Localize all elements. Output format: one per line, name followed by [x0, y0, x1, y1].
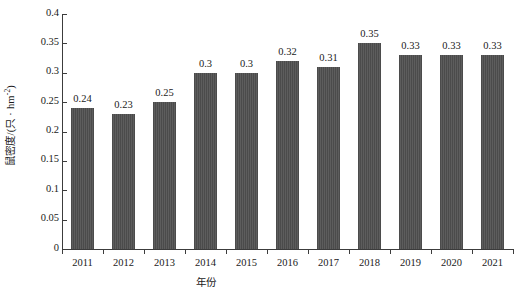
y-tick-label: 0.25	[41, 95, 59, 106]
x-tick-mark	[513, 250, 514, 254]
x-tick-label: 2013	[144, 257, 185, 268]
x-tick-mark	[390, 250, 391, 254]
x-tick-mark	[226, 250, 227, 254]
y-tick-label: 0.4	[46, 7, 59, 18]
chart-figure: 鼠密度/(只 · hm-2) 00.050.10.150.20.250.30.3…	[0, 0, 519, 295]
x-tick-mark	[62, 250, 63, 254]
y-tick-label: 0.3	[46, 65, 59, 76]
y-tick-label: 0.05	[41, 212, 59, 223]
bar	[358, 43, 381, 249]
x-tick-label: 2018	[349, 257, 390, 268]
y-tick-label: 0.1	[46, 183, 59, 194]
y-tick-mark	[63, 73, 67, 74]
bar-value-label: 0.31	[308, 52, 349, 63]
x-tick-label: 2012	[103, 257, 144, 268]
x-tick-mark	[267, 250, 268, 254]
bar-value-label: 0.33	[431, 40, 472, 51]
x-tick-mark	[349, 250, 350, 254]
y-tick-mark	[63, 14, 67, 15]
bar-value-label: 0.32	[267, 46, 308, 57]
y-tick-label: 0.15	[41, 153, 59, 164]
x-tick-mark	[308, 250, 309, 254]
x-tick-mark	[431, 250, 432, 254]
y-tick-mark	[63, 249, 67, 250]
bar	[194, 73, 217, 249]
y-axis-label-prefix: 鼠密度/(只 · hm	[6, 95, 17, 166]
y-tick-label: 0.2	[46, 124, 59, 135]
x-tick-label: 2016	[267, 257, 308, 268]
x-tick-mark	[472, 250, 473, 254]
y-tick-label: 0	[54, 242, 59, 253]
bar-value-label: 0.3	[185, 58, 226, 69]
y-tick-mark	[63, 190, 67, 191]
bar	[112, 114, 135, 249]
y-axis-label-exponent: -2	[3, 88, 12, 95]
x-tick-mark	[103, 250, 104, 254]
y-tick-mark	[63, 43, 67, 44]
bar	[71, 108, 94, 249]
bar-value-label: 0.25	[144, 87, 185, 98]
plot-area: 00.050.10.150.20.250.30.350.4 2011201220…	[62, 14, 513, 249]
bar	[276, 61, 299, 249]
bar-value-label: 0.33	[390, 40, 431, 51]
x-tick-label: 2015	[226, 257, 267, 268]
y-tick-mark	[63, 132, 67, 133]
x-tick-label: 2017	[308, 257, 349, 268]
bar	[440, 55, 463, 249]
x-tick-label: 2019	[390, 257, 431, 268]
bar	[399, 55, 422, 249]
bar	[235, 73, 258, 249]
x-tick-label: 2021	[472, 257, 513, 268]
bar	[153, 102, 176, 249]
x-tick-label: 2011	[62, 257, 103, 268]
y-tick-mark	[63, 220, 67, 221]
y-tick-label: 0.35	[41, 36, 59, 47]
bar	[317, 67, 340, 249]
y-axis-label: 鼠密度/(只 · hm-2)	[0, 0, 20, 250]
y-axis-label-suffix: )	[6, 84, 17, 88]
x-tick-label: 2014	[185, 257, 226, 268]
y-axis-label-text: 鼠密度/(只 · hm-2)	[3, 84, 18, 165]
x-axis-label: 年份	[196, 274, 216, 289]
x-axis-line	[62, 249, 514, 250]
bar	[481, 55, 504, 249]
y-tick-mark	[63, 161, 67, 162]
x-tick-mark	[144, 250, 145, 254]
bar-value-label: 0.35	[349, 28, 390, 39]
bar-value-label: 0.24	[62, 93, 103, 104]
x-tick-label: 2020	[431, 257, 472, 268]
x-tick-mark	[185, 250, 186, 254]
bar-value-label: 0.3	[226, 58, 267, 69]
bar-value-label: 0.23	[103, 99, 144, 110]
bar-value-label: 0.33	[472, 40, 513, 51]
